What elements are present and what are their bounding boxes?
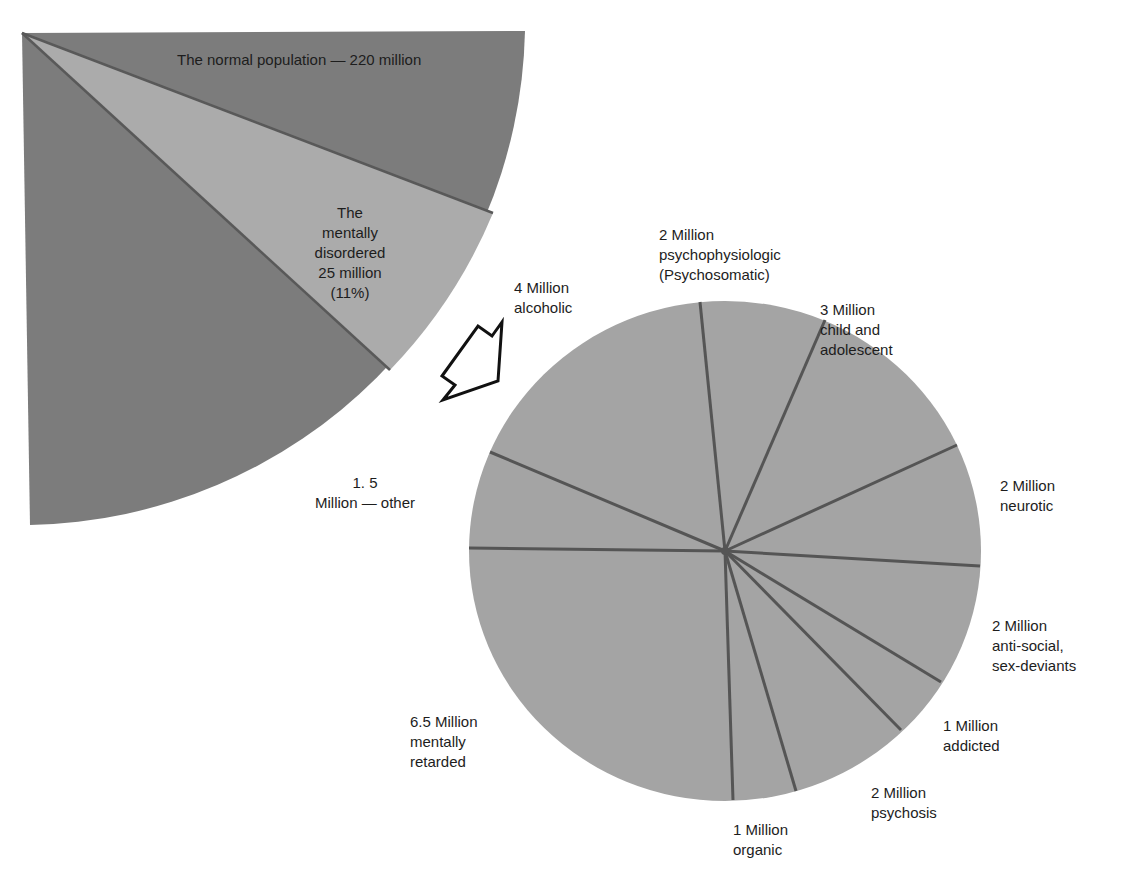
label-normal-population: The normal population — 220 million (177, 50, 421, 70)
label-psychosis: 2 Million psychosis (871, 783, 937, 823)
label-other: 1. 5 Million — other (295, 473, 435, 513)
label-mentally-disordered: The mentally disordered 25 million (11%) (303, 203, 397, 303)
breakdown-pie (469, 301, 981, 801)
label-antisocial: 2 Million anti-social, sex-deviants (992, 616, 1076, 676)
label-child-adolescent: 3 Million child and adolescent (820, 300, 893, 360)
label-organic: 1 Million organic (733, 820, 788, 860)
quarter-pie (22, 31, 525, 525)
arrow-icon (442, 322, 502, 400)
label-addicted: 1 Million addicted (943, 716, 1000, 756)
label-alcoholic: 4 Million alcoholic (514, 278, 572, 318)
label-psychophysiologic: 2 Million psychophysiologic (Psychosomat… (659, 225, 781, 285)
label-neurotic: 2 Million neurotic (1000, 476, 1055, 516)
label-mentally-retarded: 6.5 Million mentally retarded (410, 712, 478, 772)
